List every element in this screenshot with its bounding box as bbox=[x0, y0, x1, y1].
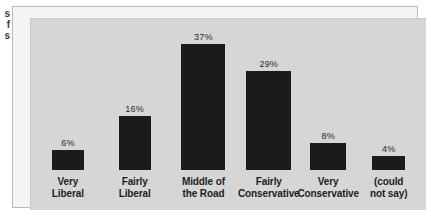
caption-fragment-line-3: s bbox=[0, 30, 10, 41]
caption-fragment-line-2: f bbox=[0, 19, 10, 30]
bar-group: 6%VeryLiberal bbox=[52, 19, 84, 210]
bar-category-label-line-1: (could bbox=[348, 176, 429, 188]
bar[interactable] bbox=[246, 71, 291, 170]
bar-group: 37%Middle ofthe Road bbox=[181, 19, 225, 210]
bar-value-label: 4% bbox=[358, 144, 419, 154]
bar[interactable] bbox=[372, 156, 405, 170]
bar-category-label: (couldnot say) bbox=[348, 176, 429, 200]
bar-value-label: 29% bbox=[232, 59, 305, 69]
bar-value-label: 37% bbox=[167, 32, 239, 42]
bar-chart-plot-area: 6%VeryLiberal16%FairlyLiberal37%Middle o… bbox=[30, 18, 426, 210]
caption-fragment-line-1: s bbox=[0, 8, 10, 19]
bar[interactable] bbox=[181, 44, 225, 170]
chart-frame: 6%VeryLiberal16%FairlyLiberal37%Middle o… bbox=[12, 6, 418, 208]
bar-group: 8%VeryConservative bbox=[310, 19, 346, 210]
bar[interactable] bbox=[310, 143, 346, 170]
bar-value-label: 8% bbox=[296, 131, 360, 141]
bar-group: 4%(couldnot say) bbox=[372, 19, 405, 210]
bar-category-label-line-2: not say) bbox=[348, 188, 429, 200]
cut-off-caption-fragment: s f s bbox=[0, 8, 10, 41]
bar-group: 29%FairlyConservative bbox=[246, 19, 291, 210]
bars-layer: 6%VeryLiberal16%FairlyLiberal37%Middle o… bbox=[31, 19, 426, 210]
bar-value-label: 6% bbox=[38, 138, 98, 148]
bar-group: 16%FairlyLiberal bbox=[119, 19, 151, 210]
bar-value-label: 16% bbox=[105, 104, 165, 114]
bar[interactable] bbox=[52, 150, 84, 170]
bar[interactable] bbox=[119, 116, 151, 170]
